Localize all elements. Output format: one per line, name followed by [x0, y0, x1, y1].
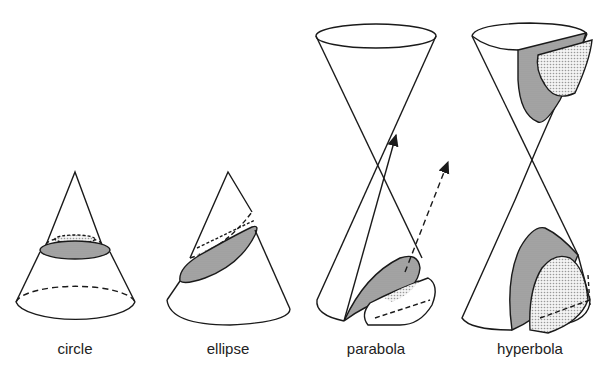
label-circle: circle: [15, 340, 135, 357]
label-ellipse: ellipse: [168, 340, 288, 357]
conic-sections-diagram: [0, 0, 604, 367]
label-parabola: parabola: [316, 340, 436, 357]
hyperbola-cone: [462, 23, 592, 333]
ellipse-cone: [167, 172, 290, 325]
circle-cone: [16, 172, 135, 319]
parabola-cone: [316, 24, 448, 325]
label-hyperbola: hyperbola: [470, 340, 590, 357]
